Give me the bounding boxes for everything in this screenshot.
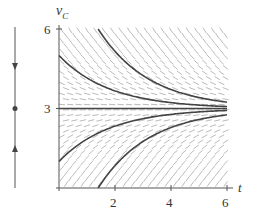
up-arrow-icon — [12, 145, 18, 152]
down-arrow-icon — [12, 63, 18, 70]
x-tick-6-label: 6 — [222, 196, 229, 209]
y-tick-6-label: 6 — [44, 23, 51, 36]
x-axis-label: t — [238, 181, 242, 194]
x-tick-2-label: 2 — [110, 196, 117, 209]
x-tick-4-label: 4 — [166, 196, 173, 209]
slope-field — [59, 28, 229, 187]
slope-field-diagram — [0, 0, 253, 217]
y-axis-label: vC — [56, 4, 68, 21]
y-tick-3-label: 3 — [44, 102, 51, 115]
equilibrium-dot — [13, 106, 18, 111]
